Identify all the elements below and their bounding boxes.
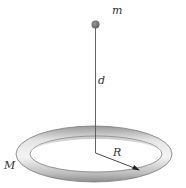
- label-point-mass: m: [112, 5, 122, 16]
- ring: [16, 126, 172, 182]
- label-distance: d: [98, 75, 105, 86]
- label-radius: R: [113, 147, 121, 158]
- ring-gravity-diagram: [0, 0, 186, 188]
- point-mass: [92, 21, 100, 29]
- label-ring-mass: M: [4, 160, 15, 171]
